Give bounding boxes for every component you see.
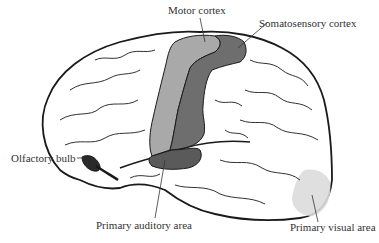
label-motor-cortex: Motor cortex [168, 5, 226, 16]
label-olfactory-bulb: Olfactory bulb [11, 153, 75, 164]
label-primary-auditory-area: Primary auditory area [96, 220, 192, 231]
label-primary-visual-area: Primary visual area [290, 222, 376, 233]
brain-diagram [0, 0, 379, 243]
label-somatosensory-cortex: Somatosensory cortex [259, 18, 356, 29]
